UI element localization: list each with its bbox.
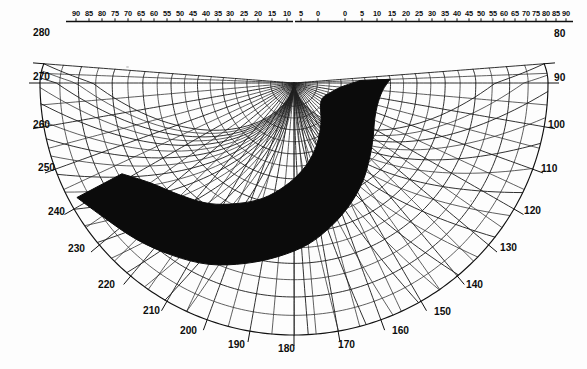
altitude-tick-label-right-90: 90 bbox=[562, 9, 570, 18]
altitude-tick-label-right-10: 10 bbox=[373, 9, 381, 18]
altitude-tick-label-right-80: 80 bbox=[542, 9, 550, 18]
azimuth-label-200: 200 bbox=[180, 325, 197, 336]
solar-shading-chart: 9085807570656055504540353025201510500510… bbox=[0, 0, 587, 369]
azimuth-label-280: 280 bbox=[33, 27, 50, 38]
azimuth-label-150: 150 bbox=[434, 306, 451, 317]
altitude-tick-label-right-50: 50 bbox=[477, 9, 485, 18]
altitude-tick-label-left-55: 55 bbox=[163, 9, 171, 18]
altitude-tick-label-right-20: 20 bbox=[402, 9, 410, 18]
altitude-tick-label-left-25: 25 bbox=[240, 9, 248, 18]
azimuth-label-220: 220 bbox=[98, 279, 115, 290]
azimuth-label-170: 170 bbox=[338, 339, 355, 350]
altitude-tick-label-right-70: 70 bbox=[522, 9, 530, 18]
azimuth-label-80: 80 bbox=[554, 28, 566, 39]
altitude-tick-label-left-70: 70 bbox=[124, 9, 132, 18]
chart-page: 9085807570656055504540353025201510500510… bbox=[0, 0, 587, 369]
azimuth-label-140: 140 bbox=[466, 279, 483, 290]
altitude-tick-label-left-50: 50 bbox=[176, 9, 184, 18]
azimuth-label-240: 240 bbox=[48, 206, 65, 217]
altitude-tick-label-left-90: 90 bbox=[72, 9, 80, 18]
altitude-tick-label-left-60: 60 bbox=[150, 9, 158, 18]
azimuth-label-100: 100 bbox=[548, 119, 565, 130]
altitude-tick-label-left-35: 35 bbox=[214, 9, 222, 18]
azimuth-label-210: 210 bbox=[143, 305, 160, 316]
azimuth-label-130: 130 bbox=[500, 242, 517, 253]
altitude-tick-label-left-10: 10 bbox=[283, 9, 291, 18]
azimuth-label-230: 230 bbox=[68, 243, 85, 254]
azimuth-label-180: 180 bbox=[278, 343, 295, 354]
altitude-tick-label-right-55: 55 bbox=[489, 9, 497, 18]
altitude-tick-label-left-80: 80 bbox=[98, 9, 106, 18]
altitude-tick-label-right-0: 0 bbox=[343, 9, 347, 18]
altitude-tick-label-left-40: 40 bbox=[202, 9, 210, 18]
altitude-tick-label-left-0: 0 bbox=[316, 9, 320, 18]
altitude-tick-label-left-85: 85 bbox=[85, 9, 93, 18]
azimuth-label-270: 270 bbox=[33, 71, 50, 82]
altitude-tick-label-right-15: 15 bbox=[388, 9, 396, 18]
azimuth-label-250: 250 bbox=[38, 162, 55, 173]
altitude-tick-label-right-60: 60 bbox=[500, 9, 508, 18]
altitude-tick-label-left-15: 15 bbox=[268, 9, 276, 18]
azimuth-label-110: 110 bbox=[541, 163, 558, 174]
altitude-tick-label-right-30: 30 bbox=[428, 9, 436, 18]
azimuth-label-190: 190 bbox=[228, 339, 245, 350]
altitude-tick-label-right-5: 5 bbox=[360, 9, 364, 18]
altitude-tick-label-right-75: 75 bbox=[532, 9, 540, 18]
altitude-tick-label-right-65: 65 bbox=[511, 9, 519, 18]
altitude-tick-label-right-85: 85 bbox=[552, 9, 560, 18]
altitude-tick-label-left-20: 20 bbox=[254, 9, 262, 18]
altitude-tick-label-right-25: 25 bbox=[415, 9, 423, 18]
altitude-tick-label-right-45: 45 bbox=[465, 9, 473, 18]
altitude-tick-label-left-5: 5 bbox=[299, 9, 303, 18]
altitude-tick-label-right-35: 35 bbox=[441, 9, 449, 18]
altitude-tick-label-left-75: 75 bbox=[111, 9, 119, 18]
altitude-tick-label-right-40: 40 bbox=[453, 9, 461, 18]
altitude-tick-label-left-30: 30 bbox=[226, 9, 234, 18]
altitude-tick-label-left-65: 65 bbox=[137, 9, 145, 18]
altitude-tick-label-left-45: 45 bbox=[189, 9, 197, 18]
azimuth-label-120: 120 bbox=[524, 205, 541, 216]
azimuth-label-160: 160 bbox=[392, 325, 409, 336]
azimuth-label-90: 90 bbox=[554, 72, 566, 83]
